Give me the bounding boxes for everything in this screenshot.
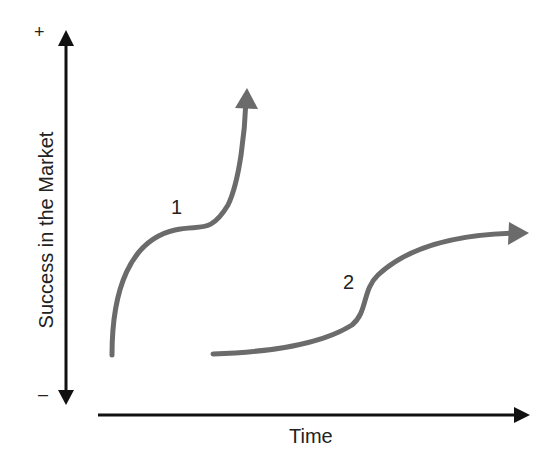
y-axis-label: Success in the Market bbox=[35, 132, 58, 329]
y-axis bbox=[58, 30, 74, 405]
curve-1-label: 1 bbox=[171, 196, 182, 219]
diagram-canvas bbox=[0, 0, 558, 472]
curve-1-arrowhead-icon bbox=[235, 88, 258, 109]
curve-1 bbox=[112, 88, 258, 355]
y-axis-up-arrow-icon bbox=[58, 30, 74, 46]
y-axis-minus-marker: – bbox=[38, 384, 48, 405]
y-axis-down-arrow-icon bbox=[58, 390, 74, 405]
x-axis bbox=[98, 407, 530, 423]
x-axis-label: Time bbox=[289, 425, 333, 448]
y-axis-plus-marker: + bbox=[34, 22, 45, 43]
curve-2-arrowhead-icon bbox=[508, 222, 529, 245]
curve-2 bbox=[213, 222, 529, 354]
x-axis-right-arrow-icon bbox=[514, 407, 530, 423]
curve-2-label: 2 bbox=[343, 271, 354, 294]
